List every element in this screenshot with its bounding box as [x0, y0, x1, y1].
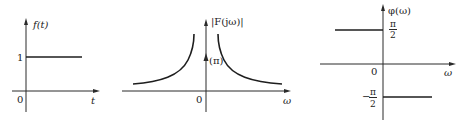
lower-level-numerator: π — [370, 87, 376, 97]
lower-level-denominator: 2 — [370, 99, 376, 109]
origin-label: 0 — [371, 66, 377, 77]
x-axis-arrow-icon — [93, 89, 100, 93]
origin-label: 0 — [17, 94, 23, 105]
signal-figures: f(t) 1 0 t |F(jω)| (π) 0 ω φ(ω) π 2 0 ω … — [0, 0, 463, 126]
x-axis-label: t — [91, 95, 96, 106]
level-label: 1 — [17, 52, 23, 63]
y-axis-arrow-icon — [381, 4, 385, 11]
figure-phase-spectrum: φ(ω) π 2 0 ω − π 2 — [320, 4, 456, 120]
y-axis-label: |F(jω)| — [211, 16, 244, 28]
y-axis-arrow-icon — [24, 18, 28, 25]
figure-time-signal: f(t) 1 0 t — [12, 18, 100, 112]
origin-label: 0 — [196, 94, 202, 105]
y-axis-label: f(t) — [32, 19, 49, 30]
impulse-arrow-icon — [204, 53, 209, 61]
x-axis-label: ω — [444, 67, 452, 78]
upper-level-numerator: π — [390, 19, 396, 29]
figure-magnitude-spectrum: |F(jω)| (π) 0 ω — [122, 16, 291, 112]
y-axis-arrow-icon — [204, 19, 208, 26]
x-axis-arrow-icon — [449, 62, 456, 66]
impulse-label: (π) — [209, 55, 223, 66]
upper-level-denominator: 2 — [390, 30, 396, 40]
left-magnitude-curve — [133, 34, 194, 84]
y-axis-label: φ(ω) — [388, 5, 411, 16]
right-magnitude-curve — [218, 34, 282, 84]
x-axis-arrow-icon — [284, 89, 291, 93]
x-axis-label: ω — [283, 95, 291, 106]
